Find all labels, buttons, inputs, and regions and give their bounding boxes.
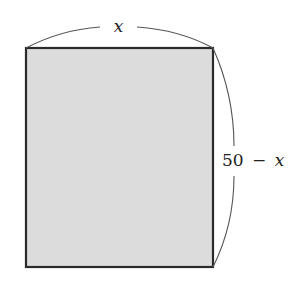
height-label: 50 − x xyxy=(222,150,285,170)
width-label: x xyxy=(114,16,124,36)
height-label-variable: x xyxy=(275,150,285,170)
height-label-number: 50 xyxy=(222,150,244,170)
right-dimension-arc-upper xyxy=(213,48,234,146)
rectangle-diagram: x 50 − x xyxy=(0,0,292,296)
top-dimension-arc-right xyxy=(137,27,213,48)
top-dimension-arc-left xyxy=(26,27,100,48)
shaded-rectangle xyxy=(26,48,213,267)
height-label-operator: − xyxy=(252,150,266,170)
right-dimension-arc-lower xyxy=(213,176,234,267)
